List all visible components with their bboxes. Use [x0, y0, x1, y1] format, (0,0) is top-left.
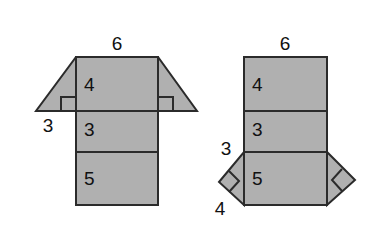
left-net-label-rect-top: 4: [84, 74, 95, 95]
right-net-label-rect-middle: 3: [252, 119, 263, 140]
right-net-label-flap-side: 3: [221, 138, 232, 159]
right-net-label-rect-bottom: 5: [252, 168, 263, 189]
left-net-label-top-width: 6: [112, 33, 123, 54]
left-net-label-flap-height: 3: [43, 115, 54, 136]
right-net-label-rect-top: 4: [252, 74, 263, 95]
geometry-diagram: 6 3 4 3 5 6 3 4 4 3 5: [0, 0, 378, 230]
right-net: 6 3 4 4 3 5: [215, 33, 355, 219]
left-net-label-rect-bottom: 5: [84, 168, 95, 189]
left-net-label-rect-middle: 3: [84, 119, 95, 140]
left-net: 6 3 4 3 5: [36, 33, 197, 205]
right-net-triangle-flap-right: [327, 152, 355, 205]
right-net-label-flap-base: 4: [215, 198, 226, 219]
right-net-label-top-width: 6: [280, 33, 291, 54]
